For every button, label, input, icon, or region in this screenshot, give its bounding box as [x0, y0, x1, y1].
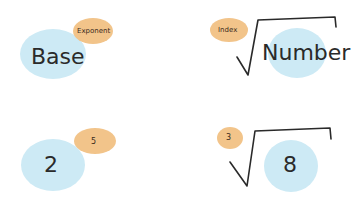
radical-sign-example-icon: [0, 0, 354, 199]
index-example-value: 3: [226, 133, 231, 142]
number-example-value: 8: [283, 152, 297, 177]
